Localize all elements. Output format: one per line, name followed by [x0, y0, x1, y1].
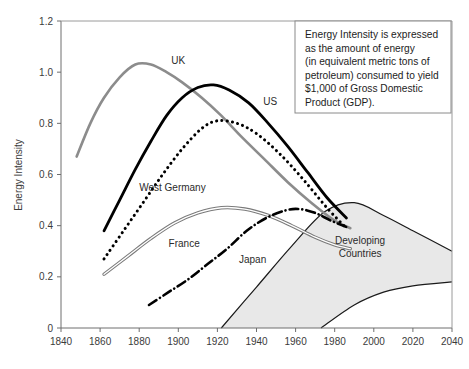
y-tick-label: 0.4 — [39, 220, 53, 231]
annotation-line: as the amount of energy — [305, 43, 416, 54]
x-tick-label: 2040 — [441, 336, 464, 347]
y-tick-label: 1.0 — [39, 67, 53, 78]
x-tick-label: 1980 — [324, 336, 347, 347]
chart-canvas: 1840186018801900192019401960198020002020… — [0, 0, 469, 369]
y-tick-label: 0.6 — [39, 169, 53, 180]
annotation-line: Energy Intensity is expressed — [305, 29, 438, 40]
annotation-line: petroleum) consumed to yield — [305, 70, 439, 81]
annotation-line: Product (GDP). — [305, 97, 375, 108]
band-label-line1: Developing — [335, 235, 385, 246]
x-tick-label: 1960 — [284, 336, 307, 347]
x-tick-label: 1880 — [128, 336, 151, 347]
series-label-japan: Japan — [239, 254, 266, 265]
x-tick-label: 1920 — [206, 336, 229, 347]
x-tick-label: 1860 — [89, 336, 112, 347]
annotation-line: $1,000 of Gross Domestic — [305, 83, 423, 94]
y-tick-label: 0.2 — [39, 271, 53, 282]
series-label-france: France — [169, 238, 201, 249]
band-label-line2: Countries — [339, 248, 382, 259]
x-tick-label: 1900 — [167, 336, 190, 347]
series-label-west-germany: West Germany — [139, 182, 206, 193]
annotation-line: (in equivalent metric tons of — [305, 56, 430, 67]
y-tick-label: 0 — [47, 323, 53, 334]
y-tick-label: 1.2 — [39, 16, 53, 27]
series-label-uk: UK — [171, 55, 185, 66]
x-tick-label: 2000 — [363, 336, 386, 347]
x-tick-label: 1840 — [50, 336, 73, 347]
y-axis-title: Energy Intensity — [13, 139, 24, 211]
y-tick-label: 0.8 — [39, 118, 53, 129]
x-tick-label: 1940 — [245, 336, 268, 347]
x-tick-label: 2020 — [402, 336, 425, 347]
energy-intensity-chart: 1840186018801900192019401960198020002020… — [0, 0, 469, 369]
series-label-us: US — [263, 96, 277, 107]
